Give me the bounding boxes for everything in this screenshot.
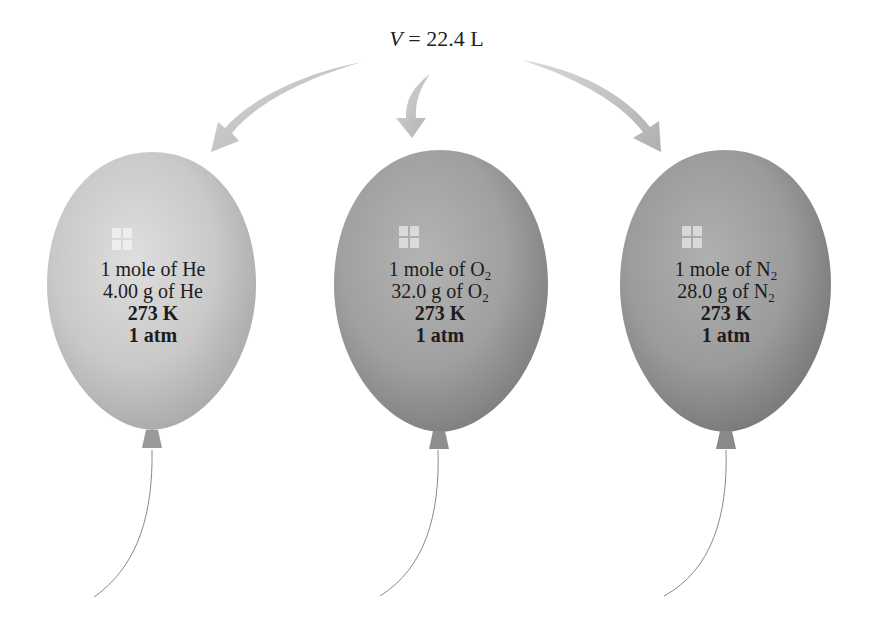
volume-equals: = xyxy=(403,26,426,51)
helium-string xyxy=(94,450,152,597)
helium-moles: 1 mole of He xyxy=(43,258,263,280)
helium-mass: 4.00 g of He xyxy=(43,280,263,302)
nitrogen-balloon-knot xyxy=(716,431,736,449)
oxygen-mass: 32.0 g of O2 xyxy=(330,280,550,302)
oxygen-moles: 1 mole of O2 xyxy=(330,258,550,280)
volume-value: 22.4 L xyxy=(426,26,483,51)
oxygen-string xyxy=(380,450,438,596)
volume-variable: V xyxy=(389,26,402,51)
arrow-to-helium xyxy=(211,62,362,152)
arrow-to-nitrogen xyxy=(522,60,661,152)
nitrogen-pressure: 1 atm xyxy=(616,324,836,346)
nitrogen-string xyxy=(664,450,726,596)
nitrogen-balloon-label: 1 mole of N2 28.0 g of N2 273 K 1 atm xyxy=(616,258,836,346)
helium-pressure: 1 atm xyxy=(43,324,263,346)
nitrogen-mass: 28.0 g of N2 xyxy=(616,280,836,302)
nitrogen-moles: 1 mole of N2 xyxy=(616,258,836,280)
oxygen-pressure: 1 atm xyxy=(330,324,550,346)
helium-balloon-knot xyxy=(142,430,162,448)
oxygen-balloon-label: 1 mole of O2 32.0 g of O2 273 K 1 atm xyxy=(330,258,550,346)
helium-balloon-label: 1 mole of He 4.00 g of He 273 K 1 atm xyxy=(43,258,263,346)
molar-volume-diagram: V = 22.4 L 1 mole of He 4.00 g of He 273… xyxy=(0,0,873,627)
arrow-to-oxygen xyxy=(396,74,430,138)
oxygen-balloon-knot xyxy=(429,431,449,449)
oxygen-temperature: 273 K xyxy=(330,302,550,324)
volume-label: V = 22.4 L xyxy=(0,26,873,52)
helium-temperature: 273 K xyxy=(43,302,263,324)
nitrogen-temperature: 273 K xyxy=(616,302,836,324)
